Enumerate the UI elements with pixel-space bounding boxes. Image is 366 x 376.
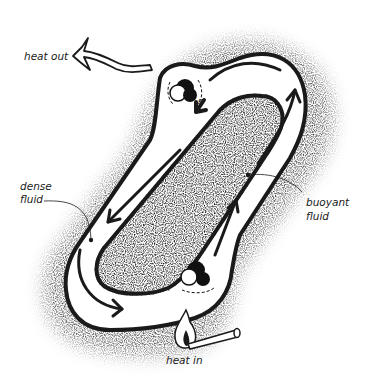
dense-fluid-label-line2: fluid — [20, 193, 43, 205]
marker-a: A — [165, 285, 170, 293]
dense-fluid-dot — [89, 238, 93, 242]
buoyant-fluid-label-line1: buoyant — [306, 196, 349, 208]
buoyant-fluid-dot — [246, 173, 250, 177]
heat-out-label: heat out — [24, 50, 68, 62]
buoyant-fluid-label-line2: fluid — [306, 210, 329, 222]
thermosiphon-diagram: heat out dense fluid buoyant fluid heat … — [0, 0, 366, 376]
heat-in-label: heat in — [166, 354, 203, 366]
heat-out-arrow — [73, 38, 152, 72]
dense-fluid-label-line1: dense — [20, 180, 52, 192]
marker-b: B — [198, 98, 203, 106]
